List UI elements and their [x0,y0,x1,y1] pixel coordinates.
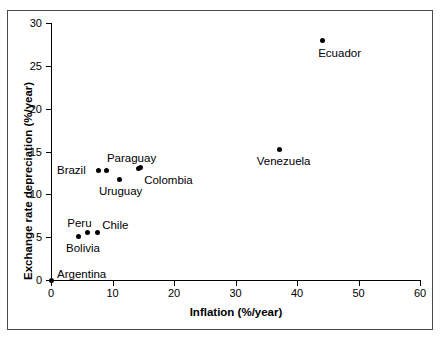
data-point-label-brazil: Brazil [57,164,86,176]
data-point-bolivia [76,234,81,239]
x-tick-label-50: 50 [344,288,374,299]
data-point-label-chile: Chile [102,219,128,231]
y-tick-label-30: 30 [16,18,42,29]
x-tick-label-30: 30 [221,288,251,299]
data-point-colombia [138,165,143,170]
y-tick-5 [46,237,51,238]
data-point-label-venezuela: Venezuela [257,155,311,167]
y-tick-30 [46,23,51,24]
x-tick-label-20: 20 [159,288,189,299]
x-tick-50 [359,281,360,286]
x-axis-title: Inflation (%/year) [51,306,421,318]
data-point-argentina [49,278,54,283]
scatter-plot-figure: 051015202530 0102030405060 ArgentinaBoli… [0,0,440,339]
y-tick-20 [46,109,51,110]
x-tick-30 [236,281,237,286]
x-tick-20 [174,281,175,286]
data-point-label-bolivia: Bolivia [66,242,100,254]
y-tick-10 [46,194,51,195]
x-tick-60 [420,281,421,286]
x-tick-label-10: 10 [98,288,128,299]
x-tick-label-40: 40 [282,288,312,299]
data-point-label-argentina: Argentina [57,268,106,280]
x-tick-label-60: 60 [405,288,435,299]
y-axis-line [51,23,52,281]
data-point-label-paraguay: Paraguay [107,152,156,164]
x-tick-10 [113,281,114,286]
data-point-label-colombia: Colombia [144,174,193,186]
x-tick-label-0: 0 [36,288,66,299]
data-point-label-peru: Peru [67,217,91,229]
data-point-label-ecuador: Ecuador [318,47,361,59]
x-tick-40 [297,281,298,286]
data-point-chile [95,230,100,235]
y-tick-25 [46,66,51,67]
y-axis-title: Exchange rate depreciation (%/year) [22,82,34,280]
y-tick-label-25: 25 [16,61,42,72]
y-tick-15 [46,152,51,153]
data-point-label-uruguay: Uruguay [99,185,142,197]
